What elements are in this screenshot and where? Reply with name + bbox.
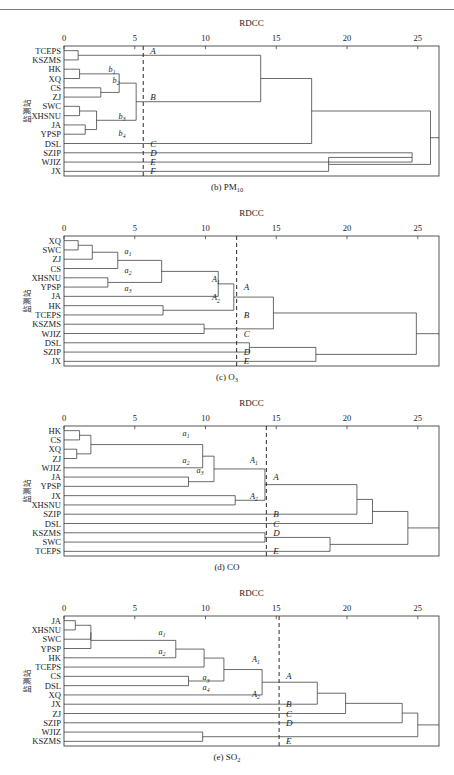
x-tick-label: 0 <box>62 223 66 233</box>
x-tick-label: 20 <box>343 223 352 233</box>
dendrogram-panel-d: RDCC0510152025监测站HKCSXQZJWJIZJAYPSPJXXHS… <box>0 388 454 578</box>
x-tick-label: 25 <box>414 603 423 613</box>
x-tick-label: 5 <box>133 223 137 233</box>
x-tick-label: 5 <box>133 603 137 613</box>
sub-cluster-label-a2: a2 <box>159 647 166 657</box>
cluster-label-B: B <box>244 310 250 320</box>
x-tick-label: 0 <box>62 603 66 613</box>
x-tick-label: 20 <box>343 603 352 613</box>
leaf-label: KSZMS <box>32 736 61 746</box>
sub-cluster-label-a1: a1 <box>183 429 190 439</box>
sub-cluster-label-a2: a2 <box>183 456 190 466</box>
sub-cluster-label-A1: A1 <box>251 655 260 665</box>
dendrogram-panel-c: RDCC0510152025监测站XQSWCZJCSXHSNUYPSPJAHKT… <box>0 198 454 388</box>
panel-caption-e: (e) SO2 <box>214 752 241 763</box>
y-axis-label: 监测站 <box>22 289 32 313</box>
cluster-label-D: D <box>272 528 280 538</box>
panel-canvas-c: RDCC0510152025监测站XQSWCZJCSXHSNUYPSPJAHKT… <box>0 198 454 388</box>
x-tick-label: 5 <box>133 33 137 43</box>
leaf-label: JX <box>51 166 61 176</box>
axis-title-e: RDCC <box>239 588 264 598</box>
sub-cluster-label-A2: A2 <box>211 293 220 303</box>
cluster-label-E: E <box>243 356 250 366</box>
panel-canvas-d: RDCC0510152025监测站HKCSXQZJWJIZJAYPSPJXXHS… <box>0 388 454 578</box>
x-tick-label: 20 <box>343 33 352 43</box>
x-tick-label: 15 <box>272 223 281 233</box>
x-tick-label: 0 <box>62 33 66 43</box>
sub-cluster-label-b4: b4 <box>119 129 126 139</box>
axis-title-c: RDCC <box>239 208 264 218</box>
panel-canvas-e: RDCC0510152025监测站JAXHSNUSWCYPSPHKTCEPSCS… <box>0 578 454 768</box>
x-tick-label: 15 <box>272 33 281 43</box>
dendrogram-panel-b: RDCC0510152025监测站TCEPSKSZMSHKXQCSZJSWCXH… <box>0 8 454 198</box>
panel-caption-d: (d) CO <box>214 562 240 572</box>
x-tick-label: 25 <box>414 33 423 43</box>
cluster-label-E: E <box>285 736 292 746</box>
cluster-label-F: F <box>149 166 156 176</box>
axis-title-b: RDCC <box>239 18 264 28</box>
cluster-label-A: A <box>285 671 292 681</box>
x-tick-label: 15 <box>272 603 281 613</box>
x-tick-label: 20 <box>343 413 352 423</box>
sub-cluster-label-a1: a1 <box>125 247 132 257</box>
sub-cluster-label-A2: A2 <box>249 492 258 502</box>
panel-caption-c: (c) O3 <box>216 372 238 383</box>
leaf-label: JX <box>51 356 61 366</box>
x-tick-label: 5 <box>133 413 137 423</box>
figure-page: RDCC0510152025监测站TCEPSKSZMSHKXQCSZJSWCXH… <box>0 0 454 775</box>
x-tick-label: 10 <box>201 413 210 423</box>
x-tick-label: 0 <box>62 413 66 423</box>
cluster-label-A: A <box>243 282 250 292</box>
sub-cluster-label-a2: a2 <box>125 266 132 276</box>
sub-cluster-label-A1: A1 <box>211 275 220 285</box>
sub-cluster-label-a3: a3 <box>125 284 132 294</box>
cluster-label-A: A <box>272 472 279 482</box>
dendrogram-panel-e: RDCC0510152025监测站JAXHSNUSWCYPSPHKTCEPSCS… <box>0 578 454 768</box>
panel-canvas-b: RDCC0510152025监测站TCEPSKSZMSHKXQCSZJSWCXH… <box>0 8 454 198</box>
x-tick-label: 15 <box>272 413 281 423</box>
cluster-label-D: D <box>285 718 293 728</box>
x-tick-label: 25 <box>414 223 423 233</box>
cluster-label-C: C <box>244 329 251 339</box>
cluster-label-B: B <box>150 92 156 102</box>
panel-caption-b: (b) PM10 <box>211 182 243 193</box>
x-tick-label: 10 <box>201 33 210 43</box>
sub-cluster-label-a4: a4 <box>203 683 210 693</box>
cluster-label-E: E <box>272 546 279 556</box>
sub-cluster-label-a1: a1 <box>159 628 166 638</box>
axis-title-d: RDCC <box>239 398 264 408</box>
x-tick-label: 10 <box>201 603 210 613</box>
x-tick-label: 10 <box>201 223 210 233</box>
sub-cluster-label-A2: A2 <box>251 690 260 700</box>
cluster-label-A: A <box>149 46 156 56</box>
sub-cluster-label-A1: A1 <box>249 456 258 466</box>
plot-frame <box>64 236 439 366</box>
leaf-label: TCEPS <box>35 546 61 556</box>
sub-cluster-label-b3: b3 <box>119 112 126 122</box>
sub-cluster-label-b1: b1 <box>109 65 116 75</box>
x-tick-label: 25 <box>414 413 423 423</box>
sub-cluster-label-b2: b2 <box>113 76 120 86</box>
plot-frame <box>64 616 439 746</box>
y-axis-label: 监测站 <box>22 669 32 693</box>
